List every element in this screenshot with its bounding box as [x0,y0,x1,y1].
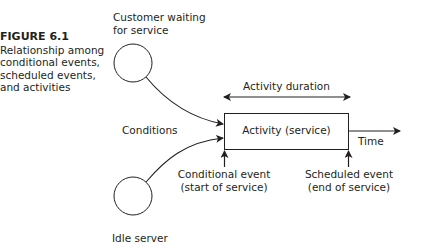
diagram-canvas [0,0,422,249]
activity-duration-label: Activity duration [224,80,349,93]
customer-label-line1: Customer waiting [113,11,206,24]
customer-label-line2: for service [113,24,206,37]
customer-node [114,44,152,82]
time-label: Time [358,135,384,148]
server-node [114,177,152,215]
conditional-event-line2: (start of service) [174,181,274,194]
conditions-label: Conditions [122,124,178,137]
scheduled-event-label: Scheduled event (end of service) [299,168,399,194]
conditional-event-label: Conditional event (start of service) [174,168,274,194]
customer-label: Customer waiting for service [113,11,206,37]
scheduled-event-line2: (end of service) [299,181,399,194]
customer-to-activity-arrow [146,77,223,124]
activity-label: Activity (service) [224,124,349,137]
scheduled-event-line1: Scheduled event [299,168,399,181]
server-label: Idle server [112,232,168,245]
conditional-event-line1: Conditional event [174,168,274,181]
